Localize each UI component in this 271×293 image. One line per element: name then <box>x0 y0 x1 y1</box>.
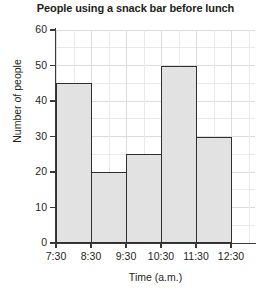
y-axis-tick-label: 50 <box>14 60 47 71</box>
y-axis-tick-label: 10 <box>14 202 47 213</box>
gridline-horizontal-major <box>56 30 255 31</box>
y-axis-tick <box>50 242 55 243</box>
y-axis-tick-label: 60 <box>14 24 47 35</box>
y-axis-tick-label: 40 <box>14 95 47 106</box>
y-axis-tick-label: 30 <box>14 131 47 142</box>
y-axis-tick <box>50 171 55 172</box>
x-axis-tick <box>55 243 56 248</box>
x-axis-line <box>55 243 256 244</box>
x-axis-tick <box>160 243 161 248</box>
x-axis-tick <box>125 243 126 248</box>
gridline-vertical-minor <box>249 30 250 243</box>
x-axis-tick <box>195 243 196 248</box>
bar <box>56 83 92 243</box>
bar <box>126 154 162 243</box>
x-axis-tick <box>90 243 91 248</box>
gridline-horizontal-minor <box>56 47 255 48</box>
y-axis-tick <box>50 65 55 66</box>
y-axis-tick-label: 0 <box>14 237 47 248</box>
y-axis-tick <box>50 29 55 30</box>
chart-title: People using a snack bar before lunch <box>0 2 271 14</box>
gridline-horizontal-major <box>56 65 255 66</box>
y-axis-tick-label: 20 <box>14 166 47 177</box>
bar <box>161 66 197 244</box>
y-axis-tick <box>50 100 55 101</box>
y-axis-line <box>55 28 56 245</box>
x-axis-label: Time (a.m.) <box>56 271 255 283</box>
bar <box>91 172 127 243</box>
plot-area <box>56 30 255 243</box>
x-axis-tick-label: 12:30 <box>209 251 253 262</box>
y-axis-tick <box>50 136 55 137</box>
y-axis-tick <box>50 207 55 208</box>
chart-container: People using a snack bar before lunch Nu… <box>0 0 271 293</box>
x-axis-tick <box>230 243 231 248</box>
bar <box>196 137 232 244</box>
